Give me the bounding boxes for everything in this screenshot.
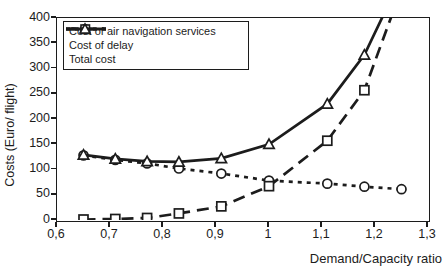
y-tick-label: 100 xyxy=(16,161,50,176)
square-marker xyxy=(265,182,274,191)
legend-label: Cost of delay xyxy=(67,39,133,52)
x-tick-mark xyxy=(426,222,428,227)
x-tick-mark xyxy=(214,222,216,227)
legend-item-total-cost: Total cost xyxy=(67,52,245,66)
x-tick-label: 1,1 xyxy=(299,227,343,242)
x-axis-title: Demand/Capacity ratio xyxy=(310,251,442,266)
x-tick-mark xyxy=(161,222,163,227)
solid-triangle-key-icon xyxy=(64,22,108,36)
x-tick-label: 0,9 xyxy=(193,227,237,242)
x-tick-label: 1 xyxy=(246,227,290,242)
x-tick-mark xyxy=(320,222,322,227)
triangle-marker xyxy=(359,50,369,59)
legend: Cost of air navigation services Cost of … xyxy=(63,21,249,70)
square-marker xyxy=(217,202,226,211)
x-tick-mark xyxy=(267,222,269,227)
circle-marker xyxy=(217,169,226,178)
square-marker xyxy=(79,215,88,220)
square-marker xyxy=(360,86,369,95)
circle-marker xyxy=(397,185,406,194)
plot-area: Cost of air navigation services Cost of … xyxy=(56,17,430,222)
x-tick-label: 1,3 xyxy=(405,227,448,242)
square-marker xyxy=(111,214,120,220)
y-tick-label: 200 xyxy=(16,111,50,126)
cost-vs-demand-capacity-chart: Costs (Euro/ flight) 0501001502002503003… xyxy=(0,0,448,275)
square-marker xyxy=(323,136,332,145)
x-tick-label: 0,8 xyxy=(140,227,184,242)
legend-label: Total cost xyxy=(67,53,115,66)
square-marker xyxy=(174,209,183,218)
y-tick-label: 400 xyxy=(16,10,50,25)
x-tick-mark xyxy=(108,222,110,227)
legend-item-cost-of-delay: Cost of delay xyxy=(67,38,245,52)
circle-marker xyxy=(323,179,332,188)
y-tick-label: 150 xyxy=(16,136,50,151)
y-tick-label: 0 xyxy=(16,212,50,227)
x-tick-mark xyxy=(373,222,375,227)
x-tick-mark xyxy=(55,222,57,227)
x-tick-label: 0,6 xyxy=(34,227,78,242)
x-tick-label: 0,7 xyxy=(87,227,131,242)
y-tick-label: 250 xyxy=(16,85,50,100)
y-tick-label: 50 xyxy=(16,186,50,201)
x-tick-label: 1,2 xyxy=(352,227,396,242)
y-tick-label: 350 xyxy=(16,35,50,50)
circle-marker xyxy=(360,182,369,191)
y-tick-label: 300 xyxy=(16,60,50,75)
square-marker xyxy=(143,213,152,220)
